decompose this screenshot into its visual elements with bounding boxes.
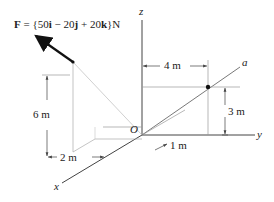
dim-4m: 4 m xyxy=(164,59,181,71)
force-equation: F = {50i − 20j + 20k}N xyxy=(14,18,120,30)
force-eq-part: − 20 xyxy=(52,18,75,30)
dim-2m: 2 m xyxy=(60,151,77,163)
force-eq-part: }N xyxy=(107,18,120,30)
force-eq-part: + 20 xyxy=(78,18,101,30)
origin-label: O xyxy=(130,123,138,135)
dim-3m: 3 m xyxy=(228,105,245,117)
dimension-lines xyxy=(42,66,228,157)
point-on-axis-a xyxy=(206,85,210,89)
dim-1m: 1 m xyxy=(170,139,187,151)
force-diagram: z y x a O 4 m 3 m 6 m 2 m 1 m F = {50i −… xyxy=(0,0,274,202)
force-application-point xyxy=(71,60,74,63)
a-axis-label: a xyxy=(242,56,248,68)
y-axis-label: y xyxy=(256,128,262,140)
force-eq-part: = {50 xyxy=(21,18,49,30)
z-axis-label: z xyxy=(138,5,144,17)
dim-6m: 6 m xyxy=(33,108,50,120)
x-axis-label: x xyxy=(53,180,59,192)
force-construction-lines xyxy=(73,62,142,152)
coordinate-axes xyxy=(62,20,255,183)
force-vector xyxy=(36,36,75,64)
